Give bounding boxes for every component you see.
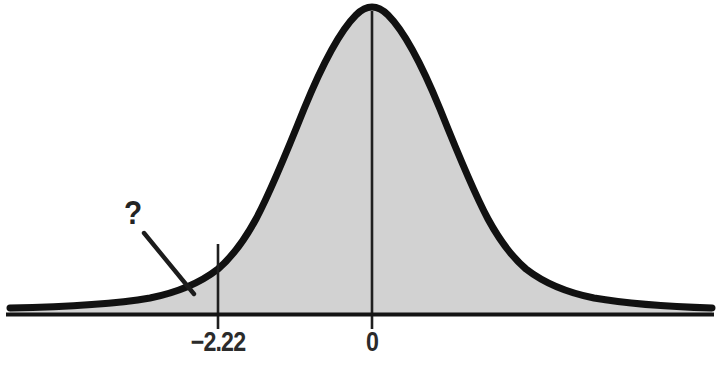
distribution-plot — [0, 0, 716, 379]
question-leader-line — [144, 233, 194, 294]
question-mark-annotation: ? — [120, 196, 147, 229]
x-tick-label-zero: 0 — [346, 327, 398, 358]
curve-shaded-area — [10, 10, 712, 314]
x-tick-label-neg-2-22: −2.22 — [168, 327, 268, 358]
normal-curve-figure: ? −2.22 0 — [0, 0, 716, 379]
